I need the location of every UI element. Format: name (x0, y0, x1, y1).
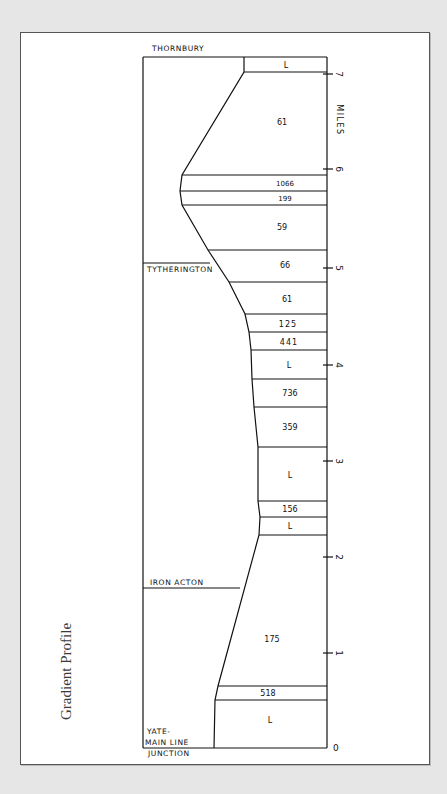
gradient-label: 125 (279, 320, 297, 329)
station-iron-acton: IRON ACTON (150, 578, 204, 587)
tick-label-2: 2 (334, 554, 344, 560)
gradient-label: L (268, 716, 273, 725)
gradient-label: 441 (280, 338, 298, 347)
section-dividers (180, 72, 327, 700)
station-yate-line3: JUNCTION (147, 749, 190, 758)
tick-label-7: 7 (334, 71, 344, 77)
gradient-label: 518 (260, 689, 275, 698)
axis-label-miles: MILES (335, 104, 344, 135)
gradient-label: 175 (264, 635, 279, 644)
station-tytherington: TYTHERINGTON (146, 265, 213, 274)
station-yate-line1: YATE- (146, 727, 171, 736)
gradient-label: L (288, 471, 293, 480)
gradient-label: 1066 (276, 180, 294, 188)
gradient-profile-diagram: 7 6 5 4 3 2 1 0 MILES THORNBURY TYTHERIN… (0, 0, 447, 794)
gradient-label: L (287, 361, 292, 370)
gradient-label: 156 (282, 505, 297, 514)
gradient-label: 61 (277, 118, 287, 127)
gradient-label: L (288, 522, 293, 531)
station-labels: THORNBURY TYTHERINGTON IRON ACTON YATE- … (145, 44, 213, 758)
tick-labels: 7 6 5 4 3 2 1 0 MILES (333, 71, 344, 753)
tick-label-5: 5 (334, 265, 344, 271)
gradient-label: 359 (282, 423, 297, 432)
gradient-labels: L 61 1066 199 59 66 61 125 441 L 736 359… (260, 61, 298, 725)
station-yate-line2: MAIN LINE (145, 738, 189, 747)
tick-label-0: 0 (333, 743, 339, 753)
gradient-label: 61 (282, 295, 292, 304)
tick-label-1: 1 (334, 650, 344, 656)
tick-label-6: 6 (334, 166, 344, 172)
gradient-label: 736 (282, 389, 297, 398)
profile-curve (180, 57, 260, 748)
gradient-label: 66 (280, 261, 290, 270)
gradient-label: 59 (277, 223, 287, 232)
gradient-label: L (284, 61, 289, 70)
tick-label-3: 3 (334, 458, 344, 464)
gradient-label: 199 (278, 195, 291, 203)
station-thornbury: THORNBURY (151, 44, 204, 53)
tick-label-4: 4 (334, 362, 344, 368)
mile-ticks (323, 74, 333, 653)
